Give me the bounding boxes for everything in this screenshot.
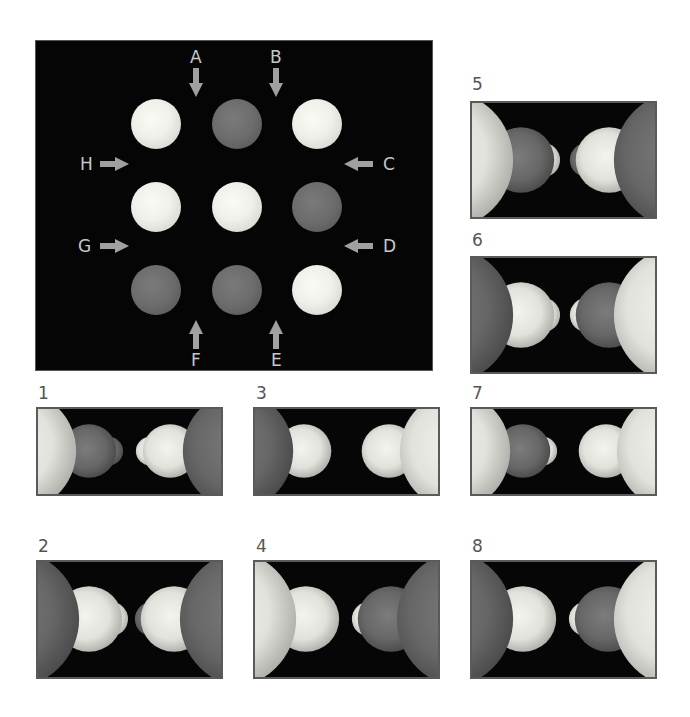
sphere-r3c3 xyxy=(292,265,342,315)
arrow-up-icon xyxy=(189,319,203,349)
arrow-down-icon xyxy=(269,68,283,98)
viewpoint-label-a: A xyxy=(190,49,202,66)
option-number-3: 3 xyxy=(256,385,267,402)
sphere-r2c2 xyxy=(212,182,262,232)
option-number-5: 5 xyxy=(472,76,483,93)
sphere-r2c3 xyxy=(292,182,342,232)
arrow-right-icon xyxy=(100,239,130,253)
option-panel-7[interactable] xyxy=(470,407,657,496)
sphere-r3c2 xyxy=(212,265,262,315)
option-number-7: 7 xyxy=(472,385,483,402)
viewpoint-label-e: E xyxy=(271,352,282,369)
option-panel-3[interactable] xyxy=(253,407,440,496)
viewpoint-label-g: G xyxy=(78,238,91,255)
option-number-8: 8 xyxy=(472,538,483,555)
option-panel-1[interactable] xyxy=(36,407,223,496)
sphere-r1c2 xyxy=(212,99,262,149)
option-number-4: 4 xyxy=(256,538,267,555)
viewpoint-label-h: H xyxy=(80,156,93,173)
arrow-right-icon xyxy=(100,157,130,171)
option-panel-5[interactable] xyxy=(470,101,657,219)
sphere-r1c1 xyxy=(131,99,181,149)
viewpoint-label-b: B xyxy=(270,49,282,66)
sphere-r3c1 xyxy=(131,265,181,315)
viewpoint-label-d: D xyxy=(383,238,396,255)
viewpoint-label-f: F xyxy=(191,352,201,369)
arrow-up-icon xyxy=(269,319,283,349)
viewpoint-label-c: C xyxy=(383,156,395,173)
sphere-r1c3 xyxy=(292,99,342,149)
sphere-r2c1 xyxy=(131,182,181,232)
option-panel-6[interactable] xyxy=(470,256,657,374)
option-panel-4[interactable] xyxy=(253,560,440,679)
arrow-left-icon xyxy=(343,239,373,253)
option-number-6: 6 xyxy=(472,232,483,249)
option-panel-2[interactable] xyxy=(36,560,223,679)
option-number-1: 1 xyxy=(38,385,49,402)
option-number-2: 2 xyxy=(38,538,49,555)
arrow-down-icon xyxy=(189,68,203,98)
arrow-left-icon xyxy=(343,157,373,171)
main-top-view-panel: A B H C G D F E xyxy=(35,40,433,371)
option-panel-8[interactable] xyxy=(470,560,657,679)
